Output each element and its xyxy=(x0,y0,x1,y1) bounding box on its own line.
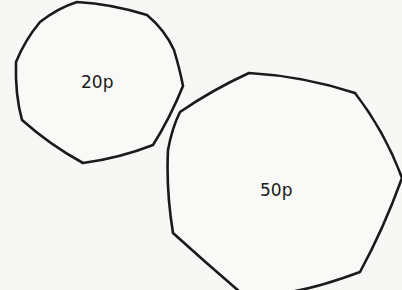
coin-20p-label: 20p xyxy=(81,72,113,92)
coin-50p-label: 50p xyxy=(260,180,292,200)
coins-diagram xyxy=(0,0,402,290)
